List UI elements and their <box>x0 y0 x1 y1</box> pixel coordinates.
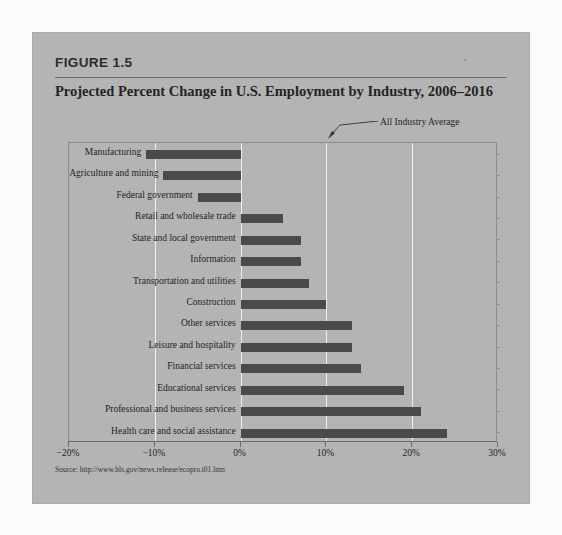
bar[interactable] <box>241 214 284 223</box>
y-tick <box>496 218 500 219</box>
corner-dot <box>464 59 466 61</box>
title-divider <box>55 77 507 78</box>
all-industry-average-label: All Industry Average <box>380 117 460 127</box>
bar-row: Retail and wholesale trade <box>69 208 496 229</box>
bar[interactable] <box>241 343 353 352</box>
x-tick-label: 0% <box>233 448 246 458</box>
category-label: Health care and social assistance <box>111 426 236 436</box>
bar[interactable] <box>241 364 361 373</box>
figure-panel: FIGURE 1.5 Projected Percent Change in U… <box>33 33 529 503</box>
bar-row: Manufacturing <box>69 144 496 165</box>
bar-row: Educational services <box>69 380 496 401</box>
category-label: State and local government <box>132 233 236 243</box>
bar[interactable] <box>241 407 421 416</box>
y-tick <box>496 304 500 305</box>
x-tick-label: −20% <box>57 448 80 458</box>
bar[interactable] <box>241 300 327 309</box>
bar-row: Federal government <box>69 187 496 208</box>
bar[interactable] <box>241 321 353 330</box>
y-tick <box>496 347 500 348</box>
bar-row: State and local government <box>69 230 496 251</box>
bar[interactable] <box>163 171 240 180</box>
figure-number: FIGURE 1.5 <box>55 55 133 70</box>
x-tick <box>154 442 155 447</box>
x-tick-label: 30% <box>488 448 505 458</box>
bar[interactable] <box>146 150 240 159</box>
all-industry-average-arrow-icon <box>328 121 384 143</box>
y-tick <box>496 325 500 326</box>
x-tick <box>411 442 412 447</box>
y-tick <box>496 389 500 390</box>
bar[interactable] <box>241 236 301 245</box>
y-tick <box>496 239 500 240</box>
y-tick <box>496 432 500 433</box>
y-tick <box>496 175 500 176</box>
y-tick <box>496 154 500 155</box>
category-label: Professional and business services <box>105 404 236 414</box>
bar[interactable] <box>241 429 447 438</box>
bar[interactable] <box>241 386 404 395</box>
x-tick-label: −10% <box>142 448 165 458</box>
category-label: Construction <box>187 297 236 307</box>
bar[interactable] <box>198 193 241 202</box>
bar[interactable] <box>241 279 310 288</box>
category-label: Transportation and utilities <box>133 276 236 286</box>
y-tick <box>496 411 500 412</box>
x-tick-label: 20% <box>402 448 419 458</box>
x-tick <box>240 442 241 447</box>
category-label: Educational services <box>157 383 235 393</box>
x-tick <box>325 442 326 447</box>
bar-row: Construction <box>69 294 496 315</box>
bar-row: Professional and business services <box>69 401 496 422</box>
bar-row: Leisure and hospitality <box>69 337 496 358</box>
x-tick-label: 10% <box>317 448 334 458</box>
y-tick <box>496 282 500 283</box>
category-label: Information <box>190 254 235 264</box>
plot-area: ManufacturingAgriculture and miningFeder… <box>68 142 497 442</box>
figure-title: Projected Percent Change in U.S. Employm… <box>55 83 515 100</box>
category-label: Financial services <box>167 361 235 371</box>
x-tick <box>68 442 69 447</box>
bar[interactable] <box>241 257 301 266</box>
bar-row: Financial services <box>69 358 496 379</box>
category-label: Agriculture and mining <box>69 168 158 178</box>
y-tick <box>496 197 500 198</box>
bar-row: Other services <box>69 315 496 336</box>
x-axis-line <box>68 441 497 442</box>
category-label: Other services <box>181 318 236 328</box>
bar-row: Information <box>69 251 496 272</box>
x-tick <box>497 442 498 447</box>
bar-row: Transportation and utilities <box>69 273 496 294</box>
category-label: Federal government <box>116 190 192 200</box>
bar-row: Agriculture and mining <box>69 165 496 186</box>
y-tick <box>496 368 500 369</box>
category-label: Retail and wholesale trade <box>135 211 236 221</box>
y-tick <box>496 261 500 262</box>
source-note: Source: http://www.bls.gov/news.release/… <box>55 465 225 474</box>
category-label: Manufacturing <box>85 147 141 157</box>
category-label: Leisure and hospitality <box>149 340 236 350</box>
